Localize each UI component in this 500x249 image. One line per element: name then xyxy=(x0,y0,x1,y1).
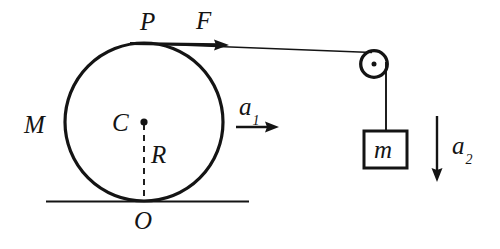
pulley xyxy=(361,51,388,78)
label-radius-R: R xyxy=(151,142,166,167)
label-center-C: C xyxy=(112,110,129,135)
label-acceleration-a1: a1 xyxy=(239,94,259,122)
acceleration-arrow-a2 xyxy=(432,116,443,182)
label-cylinder-mass-M: M xyxy=(24,112,45,137)
physics-diagram-canvas: P F M C R O a1 m a2 xyxy=(0,0,500,249)
label-hanging-mass-m: m xyxy=(374,137,392,162)
label-point-O: O xyxy=(134,208,152,233)
label-a1-base: a xyxy=(239,93,252,120)
label-acceleration-a2: a2 xyxy=(452,133,472,161)
force-arrow-F xyxy=(130,40,229,51)
label-a2-subscript: 2 xyxy=(466,152,473,167)
label-a2-base: a xyxy=(452,132,465,159)
pulley-axle-dot xyxy=(372,62,377,67)
label-point-P: P xyxy=(140,9,155,34)
label-a1-subscript: 1 xyxy=(253,113,260,128)
label-force-F: F xyxy=(196,8,211,33)
diagram-vector-layer xyxy=(0,0,500,249)
